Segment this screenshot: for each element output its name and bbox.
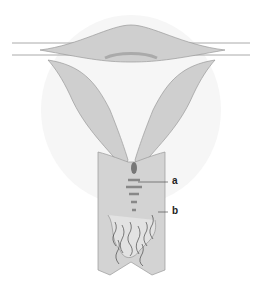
label-b: b — [172, 205, 178, 216]
anatomy-diagram — [0, 0, 263, 284]
label-a: a — [172, 175, 178, 186]
mucus-plug — [131, 162, 137, 174]
